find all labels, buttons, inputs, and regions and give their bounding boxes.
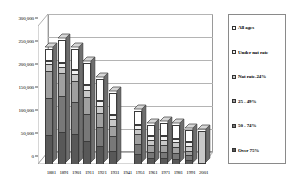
legend-item-3[interactable]: Nat rate-24%	[232, 74, 266, 79]
legend-item-label: 50 - 74%	[238, 123, 256, 128]
bar-stack	[160, 123, 168, 164]
bar-stack	[147, 125, 155, 164]
bar-segment	[71, 81, 79, 102]
legend-item-label: Under nat rate	[238, 50, 268, 55]
bar-series-layer	[38, 14, 223, 168]
bar-segment	[45, 64, 53, 70]
bar-segment	[83, 90, 91, 97]
legend-swatch-icon	[232, 148, 236, 152]
bar-segment	[83, 114, 91, 141]
bar-segment	[83, 97, 91, 114]
bar-segment	[147, 145, 155, 152]
bar-segment	[96, 146, 104, 164]
bar-stack	[83, 63, 91, 164]
bar-segment	[58, 63, 66, 67]
y-axis-tick-label: 250,000	[18, 39, 34, 44]
bar-segment	[71, 70, 79, 75]
bar-segment	[96, 106, 104, 113]
y-axis-tick-label: 300,000	[18, 16, 34, 21]
bar-segment	[134, 111, 142, 125]
legend-item-5[interactable]: 50 - 74%	[232, 123, 256, 128]
x-axis: 1881189119011911192119311941195119611971…	[38, 168, 223, 182]
bar-segment	[198, 131, 206, 164]
bar-segment	[172, 139, 180, 143]
x-axis-tick-label: 1941	[123, 170, 132, 175]
bar-stack	[172, 125, 180, 164]
x-axis-tick-label: 1891	[59, 170, 68, 175]
bar-segment	[45, 135, 53, 164]
bar-segment	[109, 93, 117, 115]
legend-swatch-icon	[232, 124, 236, 128]
bar-segment	[147, 152, 155, 158]
bar-segment	[172, 147, 180, 153]
bar-segment	[185, 151, 193, 156]
legend-item-label: 25 - 49%	[238, 99, 256, 104]
legend-swatch-icon	[232, 26, 236, 30]
x-axis-tick-label: 1931	[110, 170, 119, 175]
legend-item-4[interactable]: 25 - 49%	[232, 99, 256, 104]
y-axis-tick-label: 50,000	[21, 131, 34, 136]
bar-segment	[45, 61, 53, 65]
bar-segment	[109, 119, 117, 125]
bar-segment	[134, 125, 142, 129]
y-axis-tick-label: 100,000	[18, 108, 34, 113]
bar-stack	[134, 111, 142, 164]
bar-segment	[160, 123, 168, 137]
bar-segment	[185, 155, 193, 160]
bar-segment	[96, 101, 104, 106]
bar-segment	[58, 96, 66, 132]
legend-swatch-icon	[232, 50, 236, 54]
bar-segment	[58, 73, 66, 96]
x-axis-tick-label: 1881	[47, 170, 56, 175]
bar-segment	[147, 125, 155, 137]
bar-segment	[96, 113, 104, 127]
bar-segment	[172, 159, 180, 164]
x-axis-tick-label: 2001	[199, 170, 208, 175]
bar-segment	[96, 79, 104, 101]
bar-segment	[83, 141, 91, 164]
legend-item-6[interactable]: Over 75%	[232, 148, 259, 153]
bar-segment	[172, 125, 180, 139]
bar-segment	[134, 144, 142, 154]
bar-segment	[109, 151, 117, 164]
x-axis-tick-label: 1951	[136, 170, 145, 175]
bar-segment	[58, 40, 66, 63]
y-axis-tick-label: 150,000	[18, 85, 34, 90]
bar-segment	[71, 134, 79, 164]
bar-segment	[109, 126, 117, 136]
bar-segment	[58, 132, 66, 164]
bar-stack	[109, 93, 117, 164]
legend-swatch-icon	[232, 75, 236, 79]
legend-item-1[interactable]: All ages	[232, 25, 254, 30]
y-axis-tick-label: 0	[32, 154, 34, 159]
bar-segment	[147, 140, 155, 145]
x-axis-tick-label: 1911	[85, 170, 94, 175]
x-axis-tick-label: 1991	[186, 170, 195, 175]
legend-item-2[interactable]: Under nat rate	[232, 50, 268, 55]
bar-segment	[134, 129, 142, 135]
bar-segment	[172, 153, 180, 159]
x-axis-tick-label: 1921	[98, 170, 107, 175]
bar-segment	[96, 127, 104, 146]
bar-segment	[71, 49, 79, 70]
bar-segment	[185, 160, 193, 164]
chart-legend: All agesUnder nat rateNat rate-24%25 - 4…	[228, 14, 286, 164]
bar-segment	[185, 142, 193, 146]
bar-segment	[71, 102, 79, 134]
bar-segment	[160, 152, 168, 158]
bar-segment	[71, 74, 79, 81]
bar-stack	[71, 49, 79, 164]
bar-segment	[185, 130, 193, 143]
bar-segment	[109, 115, 117, 120]
bar-stack	[185, 130, 193, 164]
bar-segment	[109, 136, 117, 151]
bar-segment	[172, 142, 180, 147]
bar-segment	[83, 63, 91, 85]
bar-segment	[160, 136, 168, 140]
legend-swatch-icon	[232, 99, 236, 103]
bar-segment	[147, 136, 155, 140]
legend-item-label: Nat rate-24%	[238, 74, 266, 79]
bar-stack	[58, 40, 66, 164]
legend-item-label: All ages	[238, 25, 254, 30]
bar-segment	[147, 158, 155, 164]
